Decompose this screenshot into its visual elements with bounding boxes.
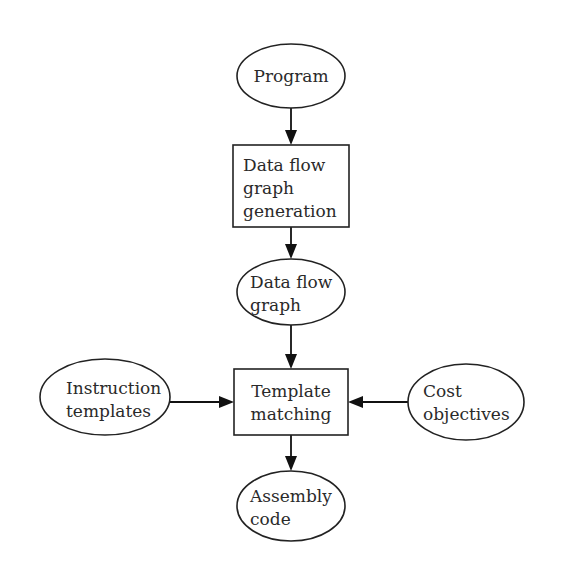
edge-dfg-generation-to-dfg xyxy=(285,227,297,259)
node-label: graph xyxy=(243,178,294,198)
node-label: Assembly xyxy=(249,486,332,506)
node-template-matching: Template matching xyxy=(234,369,348,435)
node-dfg: Data flow graph xyxy=(237,259,345,325)
node-assembly-code: Assembly code xyxy=(237,471,345,541)
edge-dfg-to-template-matching xyxy=(285,325,297,369)
node-label: graph xyxy=(250,295,301,315)
node-label: templates xyxy=(66,401,151,421)
node-label: Program xyxy=(253,66,328,86)
node-label: code xyxy=(250,509,291,529)
edge-program-to-dfg-generation xyxy=(285,108,297,145)
node-dfg-generation: Data flow graph generation xyxy=(233,145,349,227)
node-label: Data flow xyxy=(243,155,326,175)
node-label: Template xyxy=(251,381,331,401)
node-label: Data flow xyxy=(250,272,333,292)
flowchart: Program Data flow graph generation Data … xyxy=(0,0,570,579)
node-label: Instruction xyxy=(66,378,161,398)
node-program: Program xyxy=(237,44,345,108)
node-label: generation xyxy=(243,201,337,221)
edge-cost-objectives-to-template-matching xyxy=(348,396,408,408)
node-label: matching xyxy=(251,404,332,424)
node-cost-objectives: Cost objectives xyxy=(408,364,524,440)
node-label: Cost xyxy=(423,381,462,401)
node-label: objectives xyxy=(423,404,510,424)
edge-instruction-templates-to-template-matching xyxy=(170,396,234,408)
edge-template-matching-to-assembly-code xyxy=(285,435,297,471)
node-instruction-templates: Instruction templates xyxy=(40,359,170,435)
